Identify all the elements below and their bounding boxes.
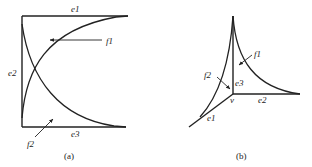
label-b-f1: f1 <box>254 49 261 59</box>
label-b-e1: e1 <box>207 113 216 123</box>
panel-b: f1 f2 e3 e2 v e1 (b) <box>189 16 300 161</box>
label-a-e1: e1 <box>71 4 80 14</box>
caption-a: (a) <box>64 151 74 161</box>
caption-b: (b) <box>236 151 247 161</box>
label-b-f2: f2 <box>204 70 212 80</box>
label-a-e3: e3 <box>71 129 80 139</box>
face-f2-curve <box>200 16 233 117</box>
label-b-vertex: v <box>230 95 234 105</box>
label-a-e2: e2 <box>8 68 17 78</box>
f1-arrow <box>239 55 252 65</box>
diagram-canvas: e1 e2 e3 f1 f2 (a) f1 f2 e3 e2 v e1 (b) <box>0 0 312 167</box>
label-a-f2: f2 <box>27 139 35 149</box>
panel-a: e1 e2 e3 f1 f2 (a) <box>8 4 128 161</box>
f2-arrow <box>35 119 53 137</box>
label-a-f1: f1 <box>106 36 113 46</box>
label-b-e2: e2 <box>258 95 267 105</box>
label-b-e3: e3 <box>235 78 244 88</box>
face-f1-curve <box>22 16 128 118</box>
